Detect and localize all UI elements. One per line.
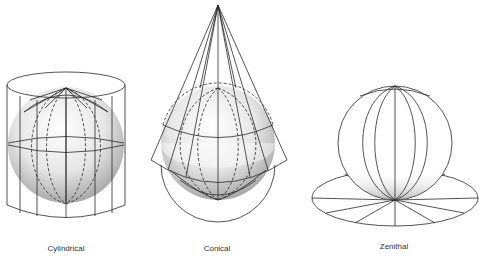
label-cylindrical: Cylindrical <box>48 244 85 253</box>
label-zenithal: Zenithal <box>380 242 408 251</box>
conical-projection <box>151 5 287 222</box>
zenithal-projection <box>312 86 478 226</box>
label-conical: Conical <box>204 244 231 253</box>
projection-diagram <box>0 0 482 266</box>
cylindrical-projection <box>7 72 125 218</box>
